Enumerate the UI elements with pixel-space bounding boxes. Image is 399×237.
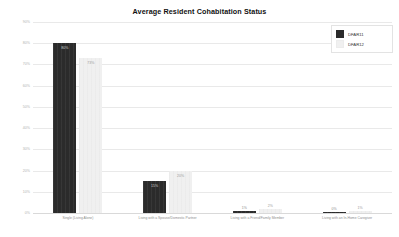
bar-value-label: 1% — [233, 206, 256, 210]
y-axis-tick-label: 20% — [4, 169, 30, 173]
legend-item-label: DFAR12 — [348, 42, 364, 47]
x-axis-category-label: Living with an In-Home Caregiver — [292, 216, 399, 220]
y-axis-tick-label: 30% — [4, 147, 30, 151]
y-axis-tick-label: 0% — [4, 211, 30, 215]
bar-series-2[interactable]: 1% — [349, 211, 372, 213]
bar-value-label: 15% — [143, 184, 166, 188]
y-axis-tick-label: 40% — [4, 126, 30, 130]
x-axis-line — [33, 213, 392, 214]
y-axis-tick-label: 50% — [4, 105, 30, 109]
legend-item-series-2[interactable]: DFAR12 — [336, 39, 388, 49]
bar-value-label: 0% — [323, 207, 346, 211]
y-axis-tick-label: 60% — [4, 84, 30, 88]
y-axis-tick-label: 90% — [4, 20, 30, 24]
bar-series-1[interactable]: 0% — [323, 212, 346, 214]
bar-series-2[interactable]: 73% — [79, 58, 102, 213]
bar-series-2[interactable]: 2% — [259, 209, 282, 213]
y-axis-tick-label: 10% — [4, 190, 30, 194]
chart-container: Average Resident Cohabitation Status 90%… — [0, 0, 399, 237]
y-axis: 90%80%70%60%50%40%30%20%10%0% — [0, 0, 30, 213]
bar-group: 1%2% — [233, 22, 282, 213]
legend-swatch-icon — [336, 40, 344, 48]
bar-value-label: 1% — [349, 206, 372, 210]
chart-title: Average Resident Cohabitation Status — [0, 7, 399, 16]
bar-group: 80%73% — [53, 22, 102, 213]
bar-series-1[interactable]: 15% — [143, 181, 166, 213]
bar-series-1[interactable]: 1% — [233, 211, 256, 213]
bar-value-label: 80% — [53, 46, 76, 50]
bar-series-2[interactable]: 20% — [169, 171, 192, 213]
bar-group: 15%20% — [143, 22, 192, 213]
y-axis-tick-label: 70% — [4, 62, 30, 66]
bar-series-1[interactable]: 80% — [53, 43, 76, 213]
chart-legend: DFAR11 DFAR12 — [331, 25, 393, 53]
bar-value-label: 2% — [259, 204, 282, 208]
legend-item-label: DFAR11 — [348, 32, 364, 37]
bar-value-label: 73% — [79, 61, 102, 65]
bar-value-label: 20% — [169, 174, 192, 178]
y-axis-tick-label: 80% — [4, 41, 30, 45]
legend-item-series-1[interactable]: DFAR11 — [336, 29, 388, 39]
legend-swatch-icon — [336, 30, 344, 38]
